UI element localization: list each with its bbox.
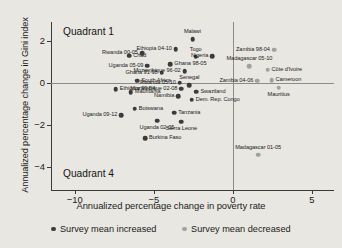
data-point-label: Burkina Faso: [149, 135, 181, 141]
data-point[interactable]: [182, 69, 187, 74]
data-point[interactable]: [174, 47, 179, 52]
data-point[interactable]: [247, 64, 252, 69]
y-axis-title: Annualized percentage change in Gini ind…: [20, 9, 30, 201]
data-point[interactable]: [256, 152, 261, 157]
chart-legend: Survey mean increasedSurvey mean decreas…: [0, 224, 342, 234]
data-point[interactable]: [155, 118, 160, 123]
y-tick-mark: [47, 83, 51, 84]
data-point[interactable]: [135, 79, 140, 84]
x-tick-label: 5: [309, 194, 314, 205]
legend-label: Survey mean increased: [60, 224, 157, 234]
data-point-label: Botswana: [139, 106, 163, 112]
legend-item[interactable]: Survey mean increased: [51, 224, 156, 234]
y-tick-label: −4: [34, 161, 45, 172]
x-tick-label: 0: [230, 194, 235, 205]
data-point[interactable]: [194, 89, 199, 94]
data-point-label: Uganda 09-12: [82, 113, 117, 119]
data-point[interactable]: [176, 94, 181, 99]
data-point[interactable]: [276, 85, 281, 90]
data-point[interactable]: [190, 37, 195, 42]
legend-marker-icon: [51, 227, 56, 232]
data-point-label: Cameroon: [276, 78, 302, 84]
legend-marker-icon: [182, 227, 187, 232]
data-point-label: Senegal: [179, 76, 199, 82]
data-point-label: Madagascar 01-05: [235, 145, 281, 151]
y-axis-line: [51, 22, 52, 190]
legend-label: Survey mean decreased: [191, 224, 291, 234]
x-axis-line: [51, 190, 334, 191]
y-tick-mark: [47, 125, 51, 126]
chart-figure: Annualized percentage change in Gini ind…: [0, 0, 342, 248]
data-point-label: Madagascar 05-10: [226, 57, 272, 63]
data-point-label: Tanzania: [178, 110, 200, 116]
data-point[interactable]: [269, 78, 274, 83]
x-tick-label: −5: [148, 194, 159, 205]
data-point[interactable]: [210, 54, 215, 59]
y-tick-label: 0: [40, 77, 45, 88]
data-point-label: Ethiopia 04-10: [137, 47, 172, 53]
vertical-zero-line: [233, 22, 234, 190]
x-axis-title: Annualized percentage change in poverty …: [0, 200, 342, 211]
data-point[interactable]: [119, 113, 124, 118]
data-point[interactable]: [272, 47, 277, 52]
data-point[interactable]: [179, 86, 184, 91]
data-point[interactable]: [114, 87, 119, 92]
data-point-label: Sierra Leone: [166, 126, 197, 132]
y-tick-mark: [47, 41, 51, 42]
y-tick-label: 2: [40, 35, 45, 46]
y-tick-label: −2: [34, 119, 45, 130]
data-point-label: Malawi: [184, 30, 201, 36]
quadrant-1-annotation: Quadrant 1: [63, 26, 114, 37]
data-point-label: Mauritius: [268, 92, 290, 98]
data-point-label: Swaziland: [200, 89, 225, 95]
data-point-label: Rwanda 00-05: [102, 50, 138, 56]
legend-item[interactable]: Survey mean decreased: [182, 224, 290, 234]
quadrant-4-annotation: Quadrant 4: [63, 168, 114, 179]
plot-area: −10−505 20−2−4 Quadrant 1 Quadrant 4 Cha…: [51, 22, 334, 190]
data-point[interactable]: [179, 119, 184, 124]
data-point-label: Mozambique 96-02: [133, 69, 180, 75]
data-point[interactable]: [255, 79, 260, 84]
y-tick-mark: [47, 167, 51, 168]
data-point[interactable]: [132, 106, 137, 111]
data-point-label: Mozambique 02-08: [130, 86, 177, 92]
data-point-label: Namibia: [154, 93, 174, 99]
data-point-label: Zambia 98-04: [236, 47, 270, 53]
data-point-label: Nigeria: [191, 53, 208, 59]
data-point-label: Zambia 04-06: [219, 78, 253, 84]
data-point[interactable]: [265, 68, 270, 73]
data-point[interactable]: [187, 83, 192, 88]
data-point[interactable]: [172, 110, 177, 115]
data-point-label: Ghana 98-05: [174, 62, 206, 68]
x-tick-label: −10: [67, 194, 83, 205]
data-point[interactable]: [143, 136, 148, 141]
data-point[interactable]: [189, 97, 194, 102]
data-point-label: Côte d'Ivoire: [272, 67, 303, 73]
data-point[interactable]: [168, 62, 173, 67]
data-point-label: Dem. Rep. Congo: [196, 97, 240, 103]
